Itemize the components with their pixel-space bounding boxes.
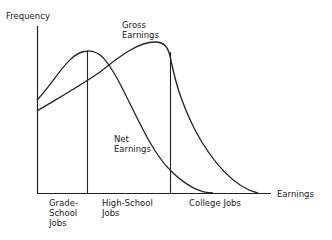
y-axis-label: Frequency: [6, 11, 50, 21]
gross-earnings-label: Gross Earnings: [122, 20, 159, 40]
net-earnings-label: Net Earnings: [114, 134, 151, 154]
region-label-grade-school: Grade- School Jobs: [49, 198, 78, 228]
region-label-college: College Jobs: [189, 198, 241, 208]
x-axis-label: Earnings: [277, 189, 314, 199]
region-label-high-school: High-School Jobs: [102, 198, 153, 218]
gross-earnings-curve: [37, 42, 258, 193]
net-earnings-curve: [37, 51, 213, 193]
